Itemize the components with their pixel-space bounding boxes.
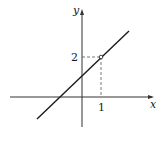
x-axis-label: x (150, 98, 157, 111)
line-graph-figure: y x 2 1 (0, 0, 159, 148)
chart-svg: y x 2 1 (0, 0, 159, 148)
y-axis-arrow-icon (80, 9, 84, 15)
y-axis-label: y (72, 4, 80, 17)
x-tick-label: 1 (98, 101, 105, 114)
highlight-point (99, 55, 103, 59)
y-tick-label: 2 (71, 51, 78, 64)
series-line (37, 31, 129, 119)
